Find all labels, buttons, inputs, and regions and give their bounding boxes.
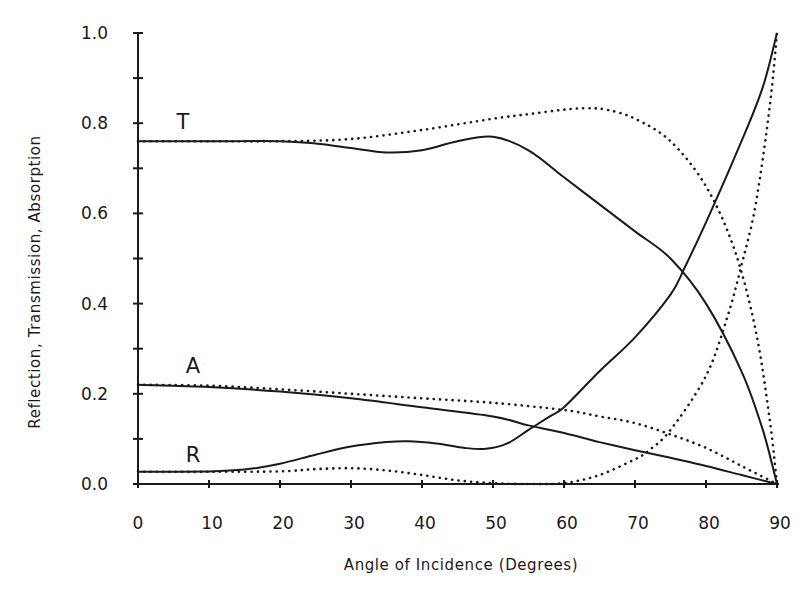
x-tick-label: 60 <box>556 513 578 533</box>
labels: Angle of Incidence (Degrees)Reflection, … <box>26 110 578 574</box>
x-tick-label: 10 <box>201 513 223 533</box>
curve-a-dotted <box>138 385 777 484</box>
x-tick-label: 0 <box>133 513 144 533</box>
y-tick-label: 0.4 <box>81 294 108 314</box>
y-tick-label: 0.8 <box>81 113 108 133</box>
curves <box>138 33 777 484</box>
y-tick-label: 0.0 <box>81 474 108 494</box>
x-tick-label: 70 <box>627 513 649 533</box>
y-tick-label: 0.2 <box>81 384 108 404</box>
y-tick-label: 0.6 <box>81 203 108 223</box>
curve-label-t: T <box>176 110 190 134</box>
x-tick-label: 80 <box>698 513 720 533</box>
y-tick-label: 1.0 <box>81 23 108 43</box>
x-tick-label: 40 <box>414 513 436 533</box>
x-tick-label: 90 <box>769 513 791 533</box>
chart-canvas: 0.00.20.40.60.81.00102030405060708090 An… <box>0 0 810 595</box>
x-tick-label: 20 <box>272 513 294 533</box>
curve-t-dotted <box>138 108 777 484</box>
curve-r-solid <box>138 33 777 472</box>
curve-a-solid <box>138 385 777 484</box>
x-tick-label: 30 <box>343 513 365 533</box>
y-axis-title: Reflection, Transmission, Absorption <box>26 135 44 428</box>
x-axis-title: Angle of Incidence (Degrees) <box>344 556 578 574</box>
curve-t-solid <box>138 136 777 484</box>
curve-label-a: A <box>186 354 201 378</box>
curve-label-r: R <box>186 443 201 467</box>
x-tick-label: 50 <box>485 513 507 533</box>
curve-r-dotted <box>138 33 777 484</box>
